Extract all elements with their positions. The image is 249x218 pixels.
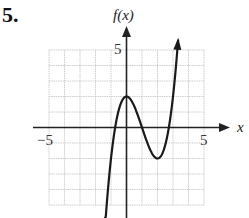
y-axis-arrow-icon bbox=[122, 26, 131, 37]
y-axis-label: f(x) bbox=[113, 7, 134, 24]
x-axis bbox=[33, 123, 230, 132]
cubic-curve bbox=[104, 40, 178, 218]
x-tick-min: −5 bbox=[37, 132, 53, 148]
y-tick-max: 5 bbox=[114, 41, 122, 57]
x-axis-label: x bbox=[236, 119, 244, 135]
x-tick-max: 5 bbox=[200, 132, 208, 148]
function-graph: x f(x) −5 5 5 bbox=[0, 0, 249, 218]
x-axis-arrow-icon bbox=[219, 123, 230, 132]
curve-up-arrow-icon bbox=[173, 38, 181, 50]
